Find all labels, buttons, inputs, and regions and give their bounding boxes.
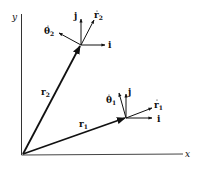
vector-diagram: y x r2 r1 i j r2 θ2 i j r1 θ1 bbox=[0, 0, 199, 171]
i-label-2: i bbox=[108, 40, 112, 50]
unit-vectors-point1: i j r1 θ1 bbox=[106, 87, 163, 124]
svg-text:θ1: θ1 bbox=[106, 95, 116, 106]
r-hat-2 bbox=[81, 20, 94, 45]
svg-text:r2: r2 bbox=[94, 10, 103, 21]
y-axis-label: y bbox=[11, 12, 18, 22]
svg-text:r1: r1 bbox=[79, 119, 88, 130]
x-axis-label: x bbox=[185, 149, 190, 159]
axes: y x bbox=[11, 12, 190, 159]
i-label-1: i bbox=[157, 114, 161, 124]
svg-text:r1: r1 bbox=[154, 100, 163, 111]
theta-hat-2 bbox=[59, 33, 81, 45]
j-label-1: j bbox=[127, 87, 131, 97]
unit-vectors-point2: i j r2 θ2 bbox=[44, 10, 112, 50]
theta-hat-1 bbox=[119, 93, 126, 118]
x-axis bbox=[22, 154, 184, 155]
svg-text:θ2: θ2 bbox=[44, 26, 54, 37]
svg-text:r2: r2 bbox=[41, 87, 50, 98]
j-label-2: j bbox=[73, 11, 77, 21]
r-hat-1 bbox=[126, 108, 152, 118]
